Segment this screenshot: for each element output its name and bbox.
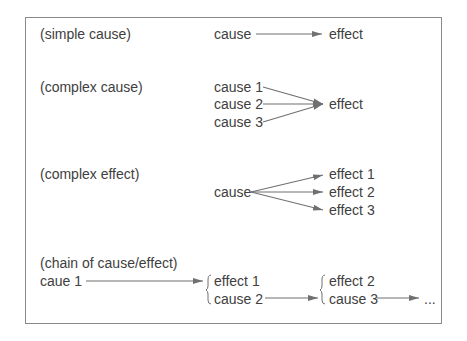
complex-cause-2: cause 2 [214,96,263,112]
simple-effect-text: effect [329,26,363,42]
brace-2 [320,275,325,304]
complex-effect-cause: cause [214,184,251,200]
label-simple-cause: (simple cause) [40,26,131,42]
chain-effect-1: effect 1 [214,273,260,289]
brace-1 [206,275,211,304]
chain-cause-2: cause 2 [214,291,263,307]
chain-cause-3: cause 3 [329,291,378,307]
complex-effect-2: effect 2 [329,184,375,200]
arrow-cause-effect3 [251,192,323,210]
complex-cause-3: cause 3 [214,114,263,130]
label-complex-effect: (complex effect) [40,166,139,182]
arrow-cause-effect1 [251,175,323,192]
chain-start: caue 1 [40,273,82,289]
chain-ellipsis: ... [424,291,436,307]
arrow-cause3-effect [263,104,323,122]
simple-cause-text: cause [214,26,251,42]
complex-cause-1: cause 1 [214,79,263,95]
chain-effect-2: effect 2 [329,273,375,289]
label-complex-cause: (complex cause) [40,79,143,95]
arrow-cause1-effect [263,87,323,104]
complex-effect-1: effect 1 [329,166,375,182]
complex-effect-3: effect 3 [329,202,375,218]
complex-cause-effect: effect [329,96,363,112]
label-chain: (chain of cause/effect) [40,255,177,271]
